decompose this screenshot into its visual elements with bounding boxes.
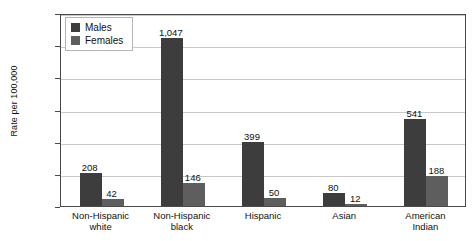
bar-value-label: 146	[185, 172, 201, 183]
bar-value-label: 208	[82, 162, 98, 173]
legend-label-females: Females	[85, 35, 123, 46]
bar-males	[404, 119, 426, 206]
y-tick-mark	[55, 111, 60, 112]
y-tick-mark	[55, 143, 60, 144]
bar-value-label: 188	[428, 165, 444, 176]
bar-value-label: 399	[244, 131, 260, 142]
y-tick-mark	[55, 78, 60, 79]
legend-swatch-females-icon	[71, 36, 80, 45]
bar-males	[323, 193, 345, 206]
chart-legend: Males Females	[65, 17, 133, 51]
legend-item-females: Females	[71, 34, 123, 47]
bar-females	[264, 198, 286, 206]
legend-label-males: Males	[85, 22, 112, 33]
bar-females	[183, 183, 205, 206]
bar-value-label: 42	[106, 188, 117, 199]
y-tick-mark	[55, 175, 60, 176]
y-tick-mark	[55, 14, 60, 15]
bar-value-label: 12	[350, 193, 361, 204]
bar-value-label: 541	[406, 108, 422, 119]
bar-value-label: 50	[269, 187, 280, 198]
x-category-label: Non-Hispanicblack	[153, 210, 210, 232]
x-category-label: Asian	[332, 210, 356, 221]
x-category-label: Non-Hispanicwhite	[72, 210, 129, 232]
y-tick-mark	[55, 207, 60, 208]
bar-females	[102, 199, 124, 206]
bar-females	[426, 176, 448, 206]
bar-value-label: 80	[328, 182, 339, 193]
y-axis-title: Rate per 100,000	[9, 41, 19, 161]
legend-item-males: Males	[71, 21, 123, 34]
bar-males	[80, 173, 102, 206]
bar-females	[345, 204, 367, 206]
bar-chart: Rate per 100,000 02004006008001,0001,200…	[0, 0, 473, 241]
bar-males	[242, 142, 264, 206]
legend-swatch-males-icon	[71, 23, 80, 32]
x-category-label: Hispanic	[245, 210, 281, 221]
bar-males	[161, 38, 183, 206]
bar-value-label: 1,047	[159, 27, 183, 38]
x-category-label: AmericanIndian	[405, 210, 445, 232]
y-tick-mark	[55, 46, 60, 47]
